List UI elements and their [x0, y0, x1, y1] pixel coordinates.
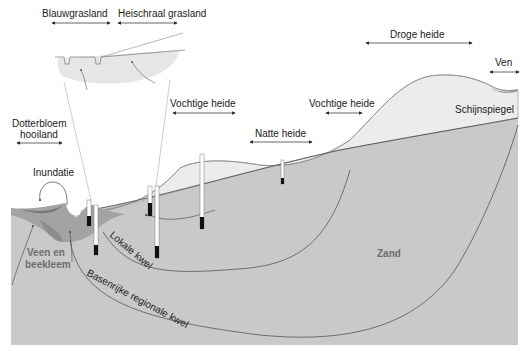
- label-droge-heide: Droge heide: [390, 29, 444, 41]
- label-heischraal-grasland: Heischraal grasland: [118, 8, 206, 20]
- label-zand: Zand: [377, 248, 401, 260]
- label-veen: Veen en: [27, 247, 65, 259]
- label-vochtige-heide-2: Vochtige heide: [309, 98, 375, 110]
- cross-section-diagram: Lokale kwel Basenrijke regionale kwel: [0, 0, 525, 351]
- label-beekleem: beekleem: [25, 259, 71, 271]
- label-ven: Ven: [495, 57, 512, 69]
- label-vochtige-heide-1: Vochtige heide: [170, 98, 236, 110]
- inundation-arrow: [40, 182, 67, 205]
- label-schijnspiegel: Schijnspiegel: [455, 104, 514, 116]
- label-natte-heide: Natte heide: [255, 128, 306, 140]
- inset-grassland-detail: [55, 33, 185, 90]
- label-hooiland: hooiland: [20, 129, 58, 141]
- label-inundatie: Inundatie: [33, 167, 74, 179]
- label-blauwgrasland: Blauwgrasland: [42, 8, 108, 20]
